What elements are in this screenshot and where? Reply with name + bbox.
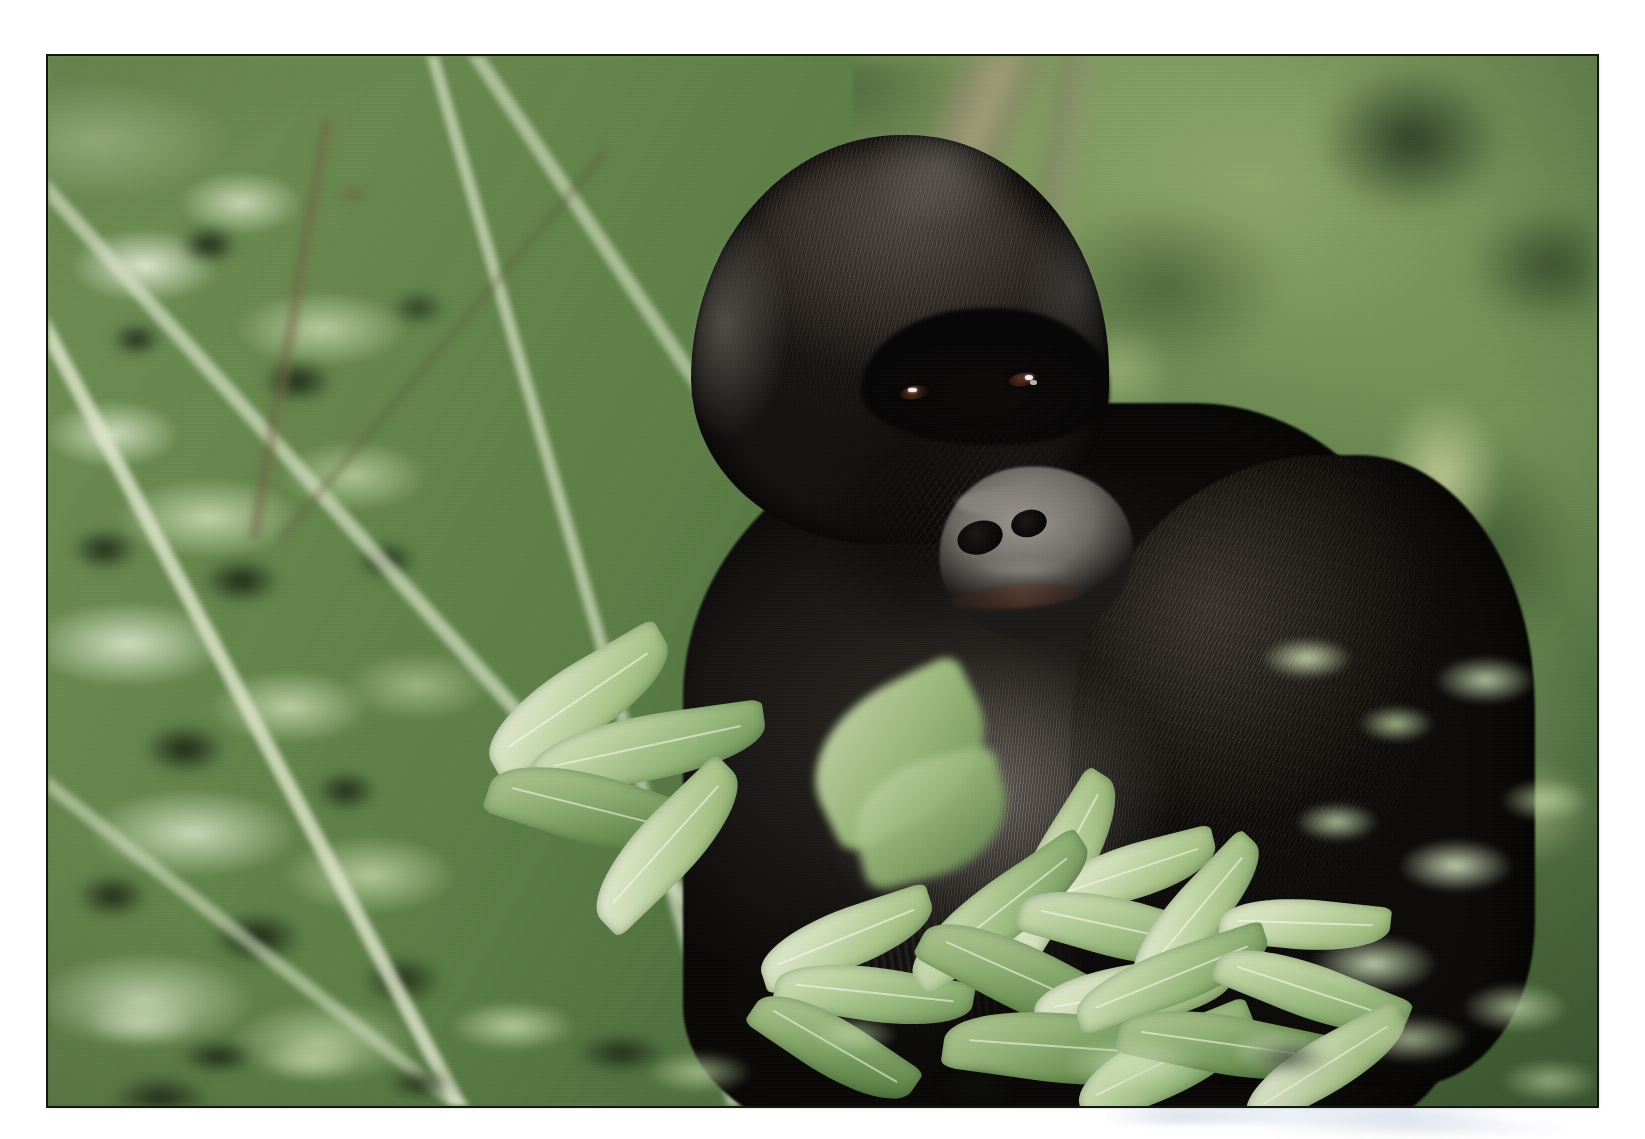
foreground-leaves: [466, 644, 807, 917]
bottom-foliage-shadows: [48, 917, 1597, 1106]
scanner-bleed-smudge-1: [1100, 1108, 1520, 1124]
foliage-twigs: [79, 119, 606, 539]
gorilla-photograph: [48, 56, 1597, 1106]
scanned-page: [0, 0, 1645, 1139]
scanner-bleed-smudge-2: [1255, 1122, 1575, 1134]
gorilla-right-eye-specular: [1030, 380, 1037, 384]
gorilla-left-eye-catchlight: [908, 388, 916, 393]
